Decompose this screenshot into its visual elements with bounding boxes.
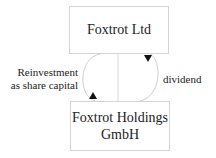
reinvestment-arc [83, 54, 100, 101]
edge-label-reinvestment: Reinvestment as share capital [8, 66, 78, 92]
node-label: Foxtrot Ltd [87, 22, 151, 38]
edge-label-line2: as share capital [8, 79, 78, 92]
node-label-line1: Foxtrot Holdings [72, 109, 168, 126]
edge-label-line1: Reinvestment [8, 66, 78, 79]
node-foxtrot-holdings: Foxtrot Holdings GmbH [70, 101, 170, 151]
edge-label-dividend: dividend [163, 73, 202, 86]
arrowhead-up-icon [89, 92, 97, 99]
dividend-arc [140, 54, 158, 101]
node-foxtrot-ltd: Foxtrot Ltd [69, 6, 169, 54]
arrowhead-down-icon [144, 55, 152, 62]
node-label-line2: GmbH [72, 126, 168, 143]
